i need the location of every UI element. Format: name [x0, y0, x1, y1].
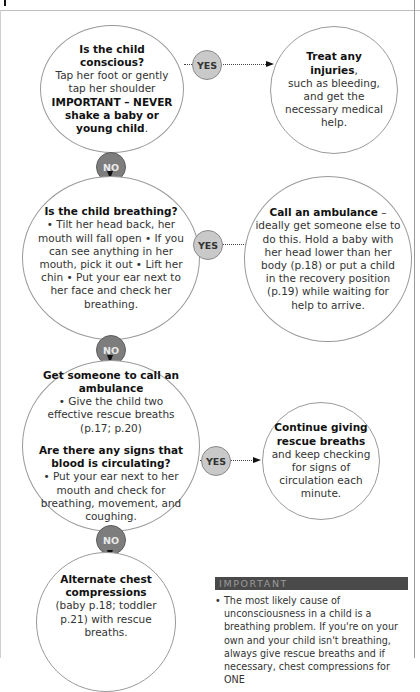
node-text: • Give the child two effective rescue br…	[35, 395, 187, 435]
node-title: Get someone to call an ambulance	[35, 369, 187, 395]
left-rule	[0, 10, 1, 658]
important-body: • The most likely cause of unconsciousne…	[215, 594, 412, 686]
yes-badge: YES	[201, 446, 231, 476]
node-title: Call an ambulance	[270, 206, 378, 218]
node-chest-compressions: Alternate chest compressions (baby p.18;…	[36, 552, 176, 692]
node-text: such as bleeding, and get the necessary …	[281, 77, 387, 130]
top-mark	[4, 0, 6, 6]
node-treat-injuries: Treat any injuries, such as bleeding, an…	[270, 26, 398, 154]
node-call-ambulance: Call an ambulance – ideally get someone …	[244, 176, 412, 342]
node-breathing: Is the child breathing? • Tilt her head …	[22, 176, 200, 340]
node-warning: IMPORTANT – NEVER shake a baby or young …	[52, 96, 173, 134]
node-title: Continue giving rescue breaths	[269, 421, 373, 447]
node-conscious: Is the child conscious? Tap her foot or …	[40, 25, 184, 153]
node-text: • Tilt her head back, her mouth will fal…	[37, 218, 185, 310]
node-title: Alternate chest compressions	[53, 573, 159, 599]
node-title: Is the child conscious?	[51, 43, 173, 69]
node-circulating: Get someone to call an ambulance • Give …	[22, 360, 200, 532]
node-title: Is the child breathing?	[37, 205, 185, 218]
top-rule	[0, 0, 420, 11]
node-text: • Put your ear next to her mouth and che…	[35, 470, 187, 523]
bullet: •	[215, 594, 221, 607]
node-text: (baby p.18; toddler p.21) with rescue br…	[53, 599, 159, 639]
node-text: Tap her foot or gently tap her shoulder	[51, 69, 173, 95]
node-continue-breaths: Continue giving rescue breaths and keep …	[262, 402, 380, 520]
right-rule	[414, 0, 415, 658]
yes-badge: YES	[193, 230, 223, 260]
arrow-right-icon	[253, 457, 261, 463]
important-heading: IMPORTANT	[215, 577, 408, 590]
important-text: The most likely cause of unconsciousness…	[215, 594, 412, 686]
node-text: and keep checking for signs of circulati…	[269, 448, 373, 501]
node-text: ideally get someone else to do this. Hol…	[255, 219, 401, 311]
node-title: Are there any signs that blood is circul…	[35, 444, 187, 470]
yes-badge: YES	[192, 50, 222, 80]
